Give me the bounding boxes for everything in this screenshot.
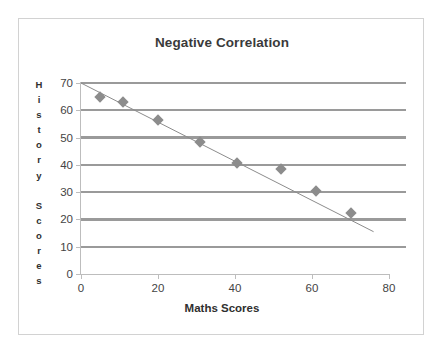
x-tick-label: 80 xyxy=(383,282,396,294)
x-axis-title: Maths Scores xyxy=(19,302,425,314)
y-axis-title-letter: r xyxy=(31,152,47,167)
y-axis-title-letter: c xyxy=(31,213,47,228)
y-axis-title-letter: y xyxy=(31,168,47,183)
y-axis-title-letter: H xyxy=(31,77,47,92)
x-tick-label: 20 xyxy=(152,282,165,294)
y-tick-label: 70 xyxy=(60,77,73,89)
y-axis-title-letter: i xyxy=(31,92,47,107)
y-tick-label: 50 xyxy=(60,132,73,144)
x-tick-label: 60 xyxy=(306,282,319,294)
y-axis-title-letter: e xyxy=(31,258,47,273)
y-tick-label: 30 xyxy=(60,186,73,198)
trendline xyxy=(81,83,411,283)
y-axis-title-letter: o xyxy=(31,228,47,243)
y-tick-label: 40 xyxy=(60,159,73,171)
y-axis-title-letter: s xyxy=(31,273,47,288)
y-tick-label: 60 xyxy=(60,104,73,116)
x-tick-label: 40 xyxy=(229,282,242,294)
y-axis-title-letter: r xyxy=(31,243,47,258)
y-axis-title-letter: t xyxy=(31,122,47,137)
y-tick-label: 10 xyxy=(60,241,73,253)
y-axis-title-letter: s xyxy=(31,107,47,122)
chart-figure-frame: Negative Correlation History Scores 0102… xyxy=(18,18,424,335)
y-axis-title: History Scores xyxy=(31,77,47,288)
chart-title: Negative Correlation xyxy=(19,35,425,50)
y-axis-title-letter: o xyxy=(31,137,47,152)
y-tick-label: 0 xyxy=(67,268,73,280)
x-tick-label: 0 xyxy=(78,282,84,294)
plot-area: 010203040506070 020406080 xyxy=(81,83,389,274)
y-axis-title-letter: S xyxy=(31,198,47,213)
y-tick-label: 20 xyxy=(60,213,73,225)
